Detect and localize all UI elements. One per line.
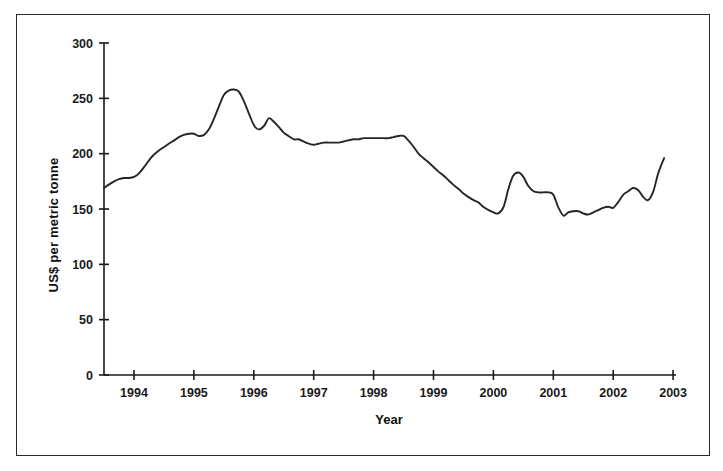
y-axis-title-text: US$ per metric tonne xyxy=(46,158,61,293)
x-tick-label-1994: 1994 xyxy=(120,386,148,400)
x-tick-label-2002: 2002 xyxy=(599,386,627,400)
y-tick-label-150: 150 xyxy=(72,203,93,217)
y-tick-label-200: 200 xyxy=(72,147,93,161)
x-tick-label-1996: 1996 xyxy=(240,386,268,400)
x-axis-tick-labels: 1994199519961997199819992000200120022003 xyxy=(120,386,687,400)
x-tick-label-1995: 1995 xyxy=(180,386,208,400)
x-tick-label-1997: 1997 xyxy=(300,386,328,400)
x-axis-title-text: Year xyxy=(375,412,402,427)
y-tick-label-100: 100 xyxy=(72,258,93,272)
y-tick-label-300: 300 xyxy=(72,37,93,51)
y-tick-label-0: 0 xyxy=(86,369,93,383)
y-tick-label-50: 50 xyxy=(79,313,93,327)
chart-figure: 050100150200250300 199419951996199719981… xyxy=(0,0,723,471)
y-axis-tick-labels: 050100150200250300 xyxy=(72,37,93,383)
x-tick-label-2000: 2000 xyxy=(479,386,507,400)
y-axis-title: US$ per metric tonne xyxy=(40,120,66,330)
x-tick-label-1999: 1999 xyxy=(420,386,448,400)
x-axis-title: Year xyxy=(104,410,674,428)
line-chart-plot: 050100150200250300 199419951996199719981… xyxy=(0,0,723,471)
x-tick-label-2003: 2003 xyxy=(659,386,687,400)
x-tick-label-1998: 1998 xyxy=(360,386,388,400)
x-tick-label-2001: 2001 xyxy=(539,386,567,400)
price-series-line xyxy=(104,89,664,215)
y-tick-label-250: 250 xyxy=(72,92,93,106)
